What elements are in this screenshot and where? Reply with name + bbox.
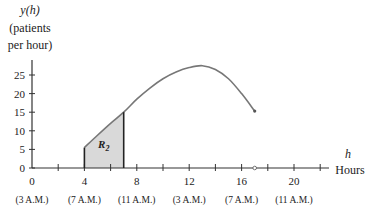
- x-tick-time-label: (7 A.M.): [225, 195, 258, 206]
- x-tick-label: 20: [289, 175, 301, 187]
- open-point-marker: [253, 166, 257, 170]
- x-tick-label: 4: [82, 175, 88, 187]
- x-tick-label: 8: [134, 175, 140, 187]
- x-tick-time-label: (11 A.M.): [275, 195, 312, 206]
- x-tick-time-label: (3 A.M.): [16, 195, 49, 206]
- y-axis-label-line3: per hour): [8, 38, 52, 52]
- y-tick-label: 0: [20, 162, 26, 174]
- x-tick-time-label: (11 A.M.): [118, 195, 155, 206]
- x-tick-label: 0: [29, 175, 35, 187]
- x-tick-time-label: (7 A.M.): [68, 195, 101, 206]
- y-tick-label: 5: [20, 143, 26, 155]
- x-tick-label: 12: [184, 175, 195, 187]
- chart: 0510152025 0(3 A.M.)4(7 A.M.)8(11 A.M.)1…: [0, 0, 377, 212]
- x-axis-unit: Hours: [335, 163, 365, 177]
- x-axis-variable: h: [345, 147, 351, 161]
- x-tick-label: 16: [236, 175, 248, 187]
- y-tick-label: 10: [14, 125, 26, 137]
- x-ticks: 0(3 A.M.)4(7 A.M.)8(11 A.M.)12(3 A.M.)16…: [16, 164, 321, 206]
- x-tick-time-label: (3 A.M.): [173, 195, 206, 206]
- y-tick-label: 20: [14, 88, 26, 100]
- y-axis-label-line2: (patients: [9, 21, 51, 35]
- curve-endpoint: [253, 109, 256, 112]
- y-axis-variable: y(h): [19, 3, 39, 17]
- y-tick-label: 15: [14, 106, 26, 118]
- y-tick-label: 25: [14, 69, 26, 81]
